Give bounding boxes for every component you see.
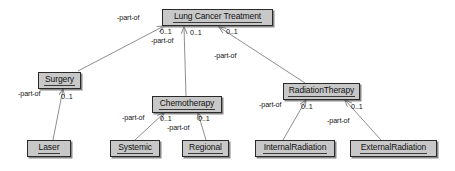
class-node-laser[interactable]: Laser bbox=[27, 140, 71, 157]
class-node-label: Lung Cancer Treatment bbox=[173, 12, 262, 23]
class-node-label: Laser bbox=[38, 143, 61, 154]
class-node-label: InternalRadiation bbox=[263, 143, 328, 154]
label-part-of-external: -part-of bbox=[327, 117, 349, 125]
edge-chemotherapy-to-treatment bbox=[184, 27, 186, 96]
class-node-label: RadiationTherapy bbox=[288, 86, 356, 97]
label-mult-surgery-top: 0..1 bbox=[160, 28, 172, 36]
uml-diagram-canvas: Lung Cancer TreatmentSurgeryChemotherapy… bbox=[0, 0, 455, 171]
label-mult-radiation-top: 0..1 bbox=[226, 28, 238, 36]
label-part-of-internal: -part-of bbox=[259, 101, 281, 109]
class-node-label: ExternalRadiation bbox=[360, 143, 427, 154]
class-node-surgery[interactable]: Surgery bbox=[38, 72, 81, 89]
label-part-of-laser: -part-of bbox=[18, 90, 40, 98]
label-part-of-surgery-top: -part-of bbox=[117, 14, 139, 22]
class-node-label: Surgery bbox=[44, 75, 75, 86]
label-mult-chemo-top: 0..1 bbox=[190, 29, 202, 37]
label-part-of-regional: -part-of bbox=[167, 124, 189, 132]
label-mult-laser: 0..1 bbox=[61, 93, 73, 101]
label-mult-external: 0..1 bbox=[351, 103, 363, 111]
label-mult-regional: 0..1 bbox=[198, 115, 210, 123]
class-node-internal-radiation[interactable]: InternalRadiation bbox=[255, 140, 335, 157]
class-node-systemic[interactable]: Systemic bbox=[110, 140, 160, 157]
label-part-of-surgery-top2: -part-of bbox=[151, 37, 173, 45]
class-node-label: Regional bbox=[188, 143, 223, 154]
class-node-label: Chemotherapy bbox=[159, 99, 216, 110]
class-node-regional[interactable]: Regional bbox=[182, 140, 229, 157]
label-mult-internal: 0..1 bbox=[301, 103, 313, 111]
class-node-radiation-therapy[interactable]: RadiationTherapy bbox=[283, 83, 360, 100]
class-node-chemotherapy[interactable]: Chemotherapy bbox=[152, 96, 222, 113]
label-mult-systemic: 0..1 bbox=[160, 115, 172, 123]
class-node-external-radiation[interactable]: ExternalRadiation bbox=[350, 140, 437, 157]
class-node-label: Systemic bbox=[117, 143, 153, 154]
class-node-lung-cancer-treatment[interactable]: Lung Cancer Treatment bbox=[162, 9, 273, 26]
edge-surgery-to-treatment bbox=[78, 26, 164, 71]
label-part-of-systemic: -part-of bbox=[122, 114, 144, 122]
label-part-of-radiation-top: -part-of bbox=[214, 52, 236, 60]
